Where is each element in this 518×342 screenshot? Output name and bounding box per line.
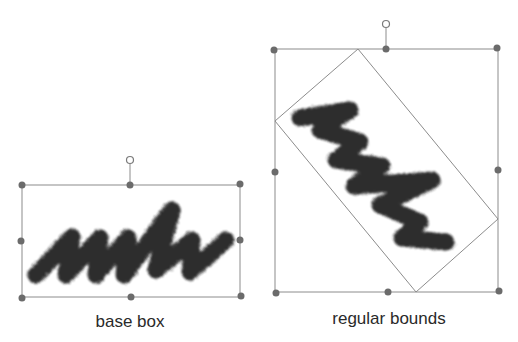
- regular-bounds-figure[interactable]: [271, 21, 503, 297]
- resize-handle-se[interactable]: [496, 288, 503, 295]
- resize-handle-ne[interactable]: [237, 181, 244, 188]
- base-box-figure[interactable]: [18, 157, 245, 302]
- resize-handle-w[interactable]: [272, 169, 279, 176]
- regular-bounds-caption: regular bounds: [332, 309, 445, 329]
- resize-handle-se[interactable]: [238, 293, 245, 300]
- resize-handle-sw[interactable]: [19, 295, 26, 302]
- base-box-caption: base box: [96, 312, 165, 332]
- resize-handle-s[interactable]: [128, 294, 135, 301]
- rotate-handle-icon[interactable]: [383, 21, 390, 28]
- resize-handle-ne[interactable]: [494, 45, 501, 52]
- resize-handle-nw[interactable]: [19, 182, 26, 189]
- resize-handle-s[interactable]: [385, 289, 392, 296]
- resize-handle-w[interactable]: [18, 238, 25, 245]
- resize-handle-n[interactable]: [127, 182, 134, 189]
- scribble-stroke: [36, 210, 226, 275]
- rotate-handle-icon[interactable]: [127, 157, 134, 164]
- resize-handle-n[interactable]: [383, 46, 390, 53]
- resize-handle-e[interactable]: [495, 167, 502, 174]
- resize-handle-e[interactable]: [237, 237, 244, 244]
- diagram-canvas: [0, 0, 518, 342]
- resize-handle-sw[interactable]: [273, 290, 280, 297]
- resize-handle-nw[interactable]: [271, 47, 278, 54]
